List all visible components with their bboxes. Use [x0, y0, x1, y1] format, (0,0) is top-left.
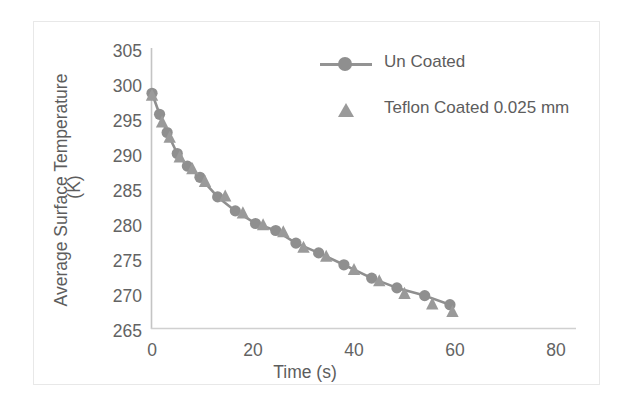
legend-key-line-circle [318, 54, 378, 74]
legend-label-un-coated: Un Coated [384, 52, 465, 72]
data-point-circle [313, 247, 324, 258]
data-point-circle [338, 259, 349, 270]
data-point-circle [290, 238, 301, 249]
data-point-circle [391, 282, 402, 293]
figure-canvas: Average Surface Temperature (K) 305 300 … [0, 0, 629, 407]
legend-item-un-coated: Un Coated [318, 52, 588, 98]
triangle-marker-icon [338, 103, 354, 117]
legend-item-teflon-coated: Teflon Coated 0.025 mm [318, 98, 588, 144]
legend-label-teflon-coated: Teflon Coated 0.025 mm [384, 98, 569, 118]
data-point-circle [419, 290, 430, 301]
legend-key-triangle [318, 100, 378, 120]
data-point-triangle [348, 263, 360, 275]
circle-marker-icon [338, 57, 352, 71]
chart-legend: Un Coated Teflon Coated 0.025 mm [318, 52, 588, 144]
